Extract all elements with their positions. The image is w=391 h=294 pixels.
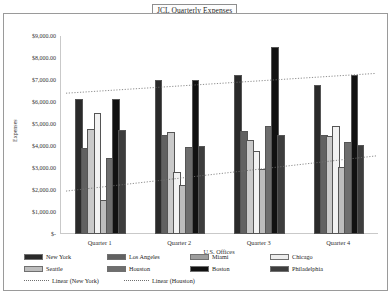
y-tick-label: $7,000.00 [32, 77, 56, 83]
legend-swatch-icon [107, 266, 126, 272]
legend-swatch-icon [190, 254, 209, 260]
x-tick-label: Quarter 4 [326, 239, 350, 246]
legend-item[interactable]: Houston [107, 265, 150, 272]
legend-label: Chicago [292, 253, 313, 260]
legend-row: SeattleHoustonBostonPhiladelphia [12, 265, 379, 276]
y-tick-label: $3,000.00 [32, 165, 56, 171]
plot-area: $9,000.00$8,000.00$7,000.00$6,000.00$5,0… [60, 36, 378, 234]
legend-swatch-icon [270, 254, 289, 260]
legend-item[interactable]: New York [24, 253, 71, 260]
y-tick-label: $1,000.00 [32, 209, 56, 215]
legend-label: Linear (Houston) [152, 277, 195, 284]
y-axis-title: Expenses [12, 119, 18, 142]
legend-label: Miami [212, 253, 229, 260]
x-tick-label: Quarter 1 [88, 239, 112, 246]
legend-item[interactable]: Los Angeles [107, 253, 160, 260]
legend-swatch-icon [24, 266, 43, 272]
legend-swatch-icon [190, 266, 209, 272]
legend-label: Boston [212, 265, 230, 272]
legend-item[interactable]: Linear (Houston) [124, 277, 195, 284]
y-tick-label: $5,000.00 [32, 121, 56, 127]
legend-item[interactable]: Chicago [270, 253, 313, 260]
legend-item[interactable]: Philadelphia [270, 265, 323, 272]
legend-item[interactable]: Miami [190, 253, 229, 260]
legend-swatch-icon [270, 266, 289, 272]
legend-dash-icon [124, 280, 149, 281]
legend-item[interactable]: Linear (New York) [24, 277, 99, 284]
legend-swatch-icon [24, 254, 43, 260]
legend-dash-icon [24, 280, 49, 281]
legend-swatch-icon [107, 254, 126, 260]
y-tick-label: $- [51, 231, 56, 237]
trendline [66, 156, 376, 191]
legend-label: Linear (New York) [52, 277, 99, 284]
legend-label: Philadelphia [292, 265, 323, 272]
x-tick-label: Quarter 3 [247, 239, 271, 246]
trendline [66, 73, 376, 93]
legend-row: Linear (New York)Linear (Houston) [12, 277, 379, 288]
x-tick-label: Quarter 2 [167, 239, 191, 246]
legend-row: New YorkLos AngelesMiamiChicago [12, 253, 379, 264]
legend-label: New York [46, 253, 71, 260]
y-tick-label: $4,000.00 [32, 143, 56, 149]
legend-label: Los Angeles [129, 253, 160, 260]
legend-label: Houston [129, 265, 150, 272]
y-tick-label: $9,000.00 [32, 33, 56, 39]
y-tick-label: $8,000.00 [32, 55, 56, 61]
legend-item[interactable]: Seattle [24, 265, 63, 272]
legend-item[interactable]: Boston [190, 265, 230, 272]
chart-legend: New YorkLos AngelesMiamiChicagoSeattleHo… [12, 253, 379, 294]
chart-screenshot: JCL Quarterly Expenses Expenses $9,000.0… [0, 0, 391, 294]
trendlines [60, 36, 378, 234]
chart-frame: Expenses $9,000.00$8,000.00$7,000.00$6,0… [3, 13, 388, 291]
y-tick-label: $2,000.00 [32, 187, 56, 193]
y-tick-label: $6,000.00 [32, 99, 56, 105]
legend-label: Seattle [46, 265, 63, 272]
